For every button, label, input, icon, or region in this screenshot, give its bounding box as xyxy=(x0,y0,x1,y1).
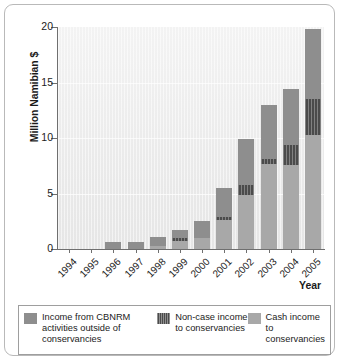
x-tick xyxy=(158,249,159,253)
x-tick-label: 2002 xyxy=(227,256,256,285)
x-tick xyxy=(313,249,314,253)
y-tick-label: 10 xyxy=(29,131,53,143)
x-tick-label: 1997 xyxy=(116,256,145,285)
bar-segment-cbnrm xyxy=(172,230,188,239)
bar-segment-noncash xyxy=(172,238,188,240)
bar-segment-cash xyxy=(238,195,254,249)
legend-item: Cash income to conservancies xyxy=(248,312,325,345)
bar-segment-cash xyxy=(283,165,299,249)
stacked-bar-chart: Million Namibian $ 05101520 199419951996… xyxy=(5,5,343,299)
legend-item-label: Cash income to conservancies xyxy=(266,312,325,345)
x-tick xyxy=(136,249,137,253)
bar[interactable] xyxy=(216,27,232,249)
bar[interactable] xyxy=(305,27,321,249)
legend-item-label: Income from CBNRM activities outside of … xyxy=(42,312,157,345)
bar-segment-cbnrm xyxy=(305,29,321,99)
bar[interactable] xyxy=(61,27,77,249)
bar-segment-cash xyxy=(216,220,232,249)
bar-segment-cbnrm xyxy=(194,221,210,238)
cbnrm-swatch xyxy=(24,313,37,324)
bar-segment-noncash xyxy=(238,185,254,194)
bar-segment-cbnrm xyxy=(261,105,277,159)
bar-segment-cbnrm xyxy=(150,237,166,246)
bar[interactable] xyxy=(128,27,144,249)
bar[interactable] xyxy=(83,27,99,249)
bar[interactable] xyxy=(238,27,254,249)
bar-segment-noncash xyxy=(283,145,299,165)
bar-segment-cash xyxy=(305,135,321,249)
legend-item-label: Non-case income to conservancies xyxy=(175,312,247,334)
cash-swatch xyxy=(248,313,261,324)
bar-segment-cash xyxy=(261,164,277,249)
figure-frame: Million Namibian $ 05101520 199419951996… xyxy=(4,4,335,356)
bar-segment-cbnrm xyxy=(105,242,121,249)
bar-segment-noncash xyxy=(216,217,232,220)
x-tick xyxy=(291,249,292,253)
bar-segment-noncash xyxy=(261,159,277,164)
bar[interactable] xyxy=(194,27,210,249)
bar-segment-cbnrm xyxy=(128,242,144,249)
bar[interactable] xyxy=(283,27,299,249)
y-axis-title: Million Namibian $ xyxy=(28,22,40,172)
bar-segment-cbnrm xyxy=(216,188,232,217)
x-axis-title: Year xyxy=(299,279,321,291)
x-tick xyxy=(180,249,181,253)
y-tick-label: 0 xyxy=(29,242,53,254)
x-tick xyxy=(69,249,70,253)
bar-segment-cash xyxy=(194,238,210,249)
legend-item: Non-case income to conservancies xyxy=(157,312,247,334)
x-tick xyxy=(269,249,270,253)
noncash-swatch xyxy=(157,313,170,324)
bar[interactable] xyxy=(261,27,277,249)
x-tick xyxy=(91,249,92,253)
chart-legend: Income from CBNRM activities outside of … xyxy=(18,305,331,355)
legend-item: Income from CBNRM activities outside of … xyxy=(24,312,157,345)
bar-segment-cash xyxy=(172,241,188,249)
x-tick xyxy=(202,249,203,253)
y-tick-label: 5 xyxy=(29,187,53,199)
bar[interactable] xyxy=(150,27,166,249)
bar-segment-cbnrm xyxy=(238,139,254,185)
x-tick xyxy=(113,249,114,253)
y-tick-label: 20 xyxy=(29,20,53,32)
x-tick xyxy=(224,249,225,253)
bar-segment-cbnrm xyxy=(283,89,299,145)
bar[interactable] xyxy=(105,27,121,249)
x-tick-label: 2003 xyxy=(249,256,278,285)
x-axis-line xyxy=(57,249,325,250)
x-tick xyxy=(246,249,247,253)
x-tick-label: 1996 xyxy=(94,256,123,285)
bar-segment-noncash xyxy=(305,99,321,135)
bar[interactable] xyxy=(172,27,188,249)
y-tick-label: 15 xyxy=(29,76,53,88)
